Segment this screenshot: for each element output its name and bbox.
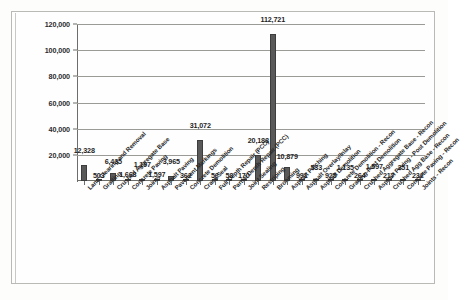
bar-fill xyxy=(81,165,87,181)
x-tick-mark xyxy=(360,181,361,185)
x-tick-mark xyxy=(99,181,100,185)
y-tick-label: 100,000 xyxy=(45,46,70,55)
gridline-100000 xyxy=(77,50,425,51)
bar-value-label: 991 xyxy=(296,171,308,180)
x-tick-mark xyxy=(128,181,129,185)
gridline-60000 xyxy=(77,103,425,104)
x-tick-mark xyxy=(113,181,114,185)
gridline-80000 xyxy=(77,76,425,77)
gridline-120000 xyxy=(77,24,425,25)
bar-value-label: 56 xyxy=(211,171,219,180)
bar-value-label: 6,435 xyxy=(105,157,122,166)
x-tick-mark xyxy=(215,181,216,185)
bar-value-label: 503 xyxy=(93,171,105,180)
bar-value-label: 251 xyxy=(397,163,409,172)
x-tick-mark xyxy=(229,181,230,185)
x-tick-mark xyxy=(374,181,375,185)
x-tick-mark xyxy=(389,181,390,185)
bar-value-label: 1,197 xyxy=(134,160,151,169)
x-tick-mark xyxy=(171,181,172,185)
x-tick-mark xyxy=(157,181,158,185)
bar-value-label: 232 xyxy=(412,171,424,180)
y-tick-label: 120,000 xyxy=(45,20,70,29)
x-tick-mark xyxy=(186,181,187,185)
bar-value-label: 112,721 xyxy=(260,15,285,24)
bar[interactable] xyxy=(270,34,276,181)
bar-value-label: 264 xyxy=(354,171,366,180)
y-axis-labels: 20,00040,00060,00080,000100,000120,000 xyxy=(0,0,74,300)
bar-value-label: 20,188 xyxy=(248,136,269,145)
x-tick-mark xyxy=(258,181,259,185)
bar-value-label: 1,668 xyxy=(119,170,136,179)
x-tick-mark xyxy=(84,181,85,185)
bar-value-label: 3,965 xyxy=(163,157,180,166)
bar-value-label: 170 xyxy=(238,171,250,180)
bar-value-label: 1,597 xyxy=(366,162,383,171)
bar-value-label: 10,879 xyxy=(277,152,298,161)
x-tick-mark xyxy=(273,181,274,185)
y-tick-label: 80,000 xyxy=(49,72,70,81)
bar-fill xyxy=(270,34,276,181)
bar-value-label: 31,072 xyxy=(190,121,211,130)
bar-value-label: 217 xyxy=(383,171,395,180)
x-tick-mark xyxy=(316,181,317,185)
x-tick-mark xyxy=(331,181,332,185)
bar[interactable] xyxy=(81,165,87,181)
bar-value-label: 925 xyxy=(325,171,337,180)
y-tick-label: 40,000 xyxy=(49,124,70,133)
x-tick-mark xyxy=(244,181,245,185)
bar-value-label: 533 xyxy=(310,163,322,172)
x-tick-mark xyxy=(418,181,419,185)
y-tick-label: 20,000 xyxy=(49,150,70,159)
bar-value-label: 12,328 xyxy=(74,146,95,155)
bar-value-label: 58 xyxy=(225,171,233,180)
x-tick-mark xyxy=(345,181,346,185)
bar-value-label: 1,135 xyxy=(337,163,354,172)
bar-value-label: 362 xyxy=(180,171,192,180)
x-tick-mark xyxy=(200,181,201,185)
x-tick-mark xyxy=(287,181,288,185)
gridline-40000 xyxy=(77,129,425,130)
x-tick-mark xyxy=(302,181,303,185)
y-tick-label: 60,000 xyxy=(49,98,70,107)
bar-value-label: 1,597 xyxy=(148,170,165,179)
x-tick-mark xyxy=(142,181,143,185)
x-tick-mark xyxy=(403,181,404,185)
